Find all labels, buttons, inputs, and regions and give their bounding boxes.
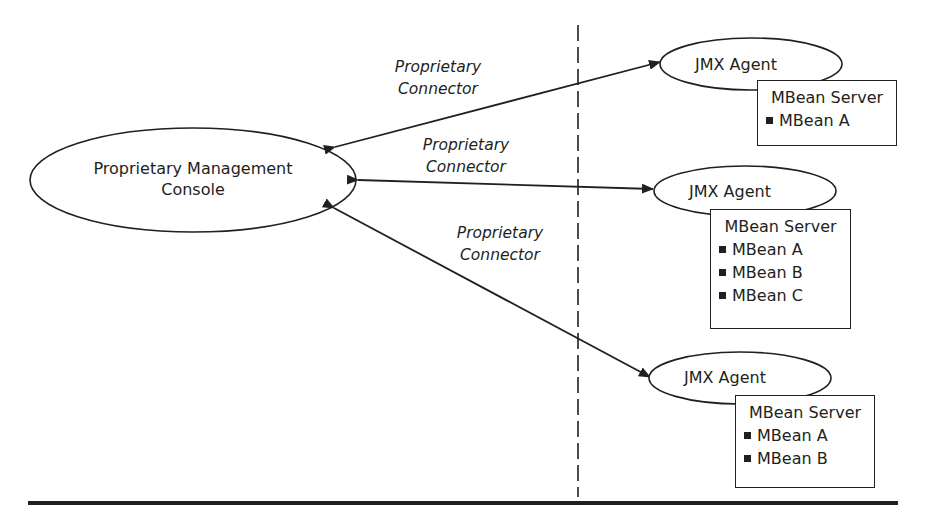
mbean-item: MBean A [758,109,896,132]
connector-label-line1: Proprietary [406,134,526,156]
agent-label-1: JMX Agent [661,55,811,75]
mbean-server-title: MBean Server [711,216,850,238]
agent-label-2: JMX Agent [655,182,805,202]
mbean-server-box-3: MBean Server MBean A MBean B [735,395,875,488]
connector-label-line1: Proprietary [378,56,498,78]
mbean-server-box-2: MBean Server MBean A MBean B MBean C [710,209,851,329]
agent-label-3: JMX Agent [650,368,800,388]
mbean-name: MBean C [732,286,803,305]
mbean-item: MBean B [736,447,874,470]
mbean-name: MBean B [732,263,803,282]
square-bullet-icon [719,269,726,276]
mbean-name: MBean B [757,449,828,468]
square-bullet-icon [744,455,751,462]
connector-label-3: Proprietary Connector [440,222,560,266]
mbean-name: MBean A [779,111,850,130]
connector-label-line1: Proprietary [440,222,560,244]
connector-label-line2: Connector [440,244,560,266]
mbean-item: MBean C [711,284,850,307]
mbean-name: MBean A [757,426,828,445]
mbean-name: MBean A [732,240,803,259]
mbean-server-box-1: MBean Server MBean A [757,80,897,146]
connector-label-1: Proprietary Connector [378,56,498,100]
mbean-server-title: MBean Server [758,87,896,109]
console-label: Proprietary Management Console [63,158,323,200]
square-bullet-icon [719,246,726,253]
square-bullet-icon [719,292,726,299]
mbean-server-title: MBean Server [736,402,874,424]
square-bullet-icon [766,117,773,124]
connector-arrow-2 [358,180,653,189]
mbean-item: MBean B [711,261,850,284]
bottom-rule [28,501,898,505]
console-label-line1: Proprietary Management [63,158,323,179]
mbean-item: MBean A [736,424,874,447]
connector-label-2: Proprietary Connector [406,134,526,178]
square-bullet-icon [744,432,751,439]
console-label-line2: Console [63,179,323,200]
mbean-item: MBean A [711,238,850,261]
connector-label-line2: Connector [406,156,526,178]
connector-label-line2: Connector [378,78,498,100]
